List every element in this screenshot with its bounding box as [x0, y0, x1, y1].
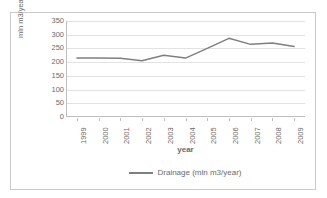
- x-tick-label-2001: 2001: [123, 110, 131, 144]
- x-axis-title: year: [66, 145, 305, 154]
- x-tickmark-2003: [164, 118, 165, 121]
- x-tick-label-2007: 2007: [254, 110, 262, 144]
- x-tick-label-2008: 2008: [275, 110, 283, 144]
- x-tick-label-2004: 2004: [189, 110, 197, 144]
- x-tick-label-2002: 2002: [145, 110, 153, 144]
- x-tick-label-2003: 2003: [167, 110, 175, 144]
- x-tickmark-2000: [99, 118, 100, 121]
- legend-label-drainage: Drainage (mln m3/year): [157, 168, 241, 178]
- x-tick-label-2006: 2006: [232, 110, 240, 144]
- y-axis-tick-labels: 050100150200250300350: [34, 15, 64, 123]
- x-tickmark-2004: [186, 118, 187, 121]
- y-tick-label-300: 300: [34, 31, 64, 39]
- x-tick-label-2009: 2009: [297, 110, 305, 144]
- y-tick-label-150: 150: [34, 72, 64, 80]
- x-tick-label-2000: 2000: [102, 110, 110, 144]
- x-tickmark-2001: [120, 118, 121, 121]
- y-tick-label-250: 250: [34, 44, 64, 52]
- x-tickmark-2009: [294, 118, 295, 121]
- y-tick-label-200: 200: [34, 58, 64, 66]
- x-tickmark-1999: [77, 118, 78, 121]
- x-tickmark-2008: [272, 118, 273, 121]
- x-tickmark-2006: [229, 118, 230, 121]
- x-axis-tick-labels: 1999200020012002200320042005200620072008…: [66, 118, 305, 148]
- y-tick-label-100: 100: [34, 86, 64, 94]
- chart-figure: mln m3/year 050100150200250300350 199920…: [0, 0, 327, 198]
- y-tick-label-0: 0: [34, 113, 64, 121]
- x-tick-label-1999: 1999: [80, 110, 88, 144]
- series-line-drainage: [66, 21, 305, 117]
- y-tick-label-350: 350: [34, 17, 64, 25]
- y-axis-title: mln m3/year: [17, 0, 25, 38]
- y-tick-label-50: 50: [34, 99, 64, 107]
- plot-area: [66, 21, 305, 117]
- x-tick-label-2005: 2005: [210, 110, 218, 144]
- x-tickmark-2002: [142, 118, 143, 121]
- legend-swatch-drainage: [129, 172, 153, 174]
- chart-legend: Drainage (mln m3/year): [66, 166, 305, 180]
- x-tickmark-2007: [251, 118, 252, 121]
- x-tickmark-2005: [207, 118, 208, 121]
